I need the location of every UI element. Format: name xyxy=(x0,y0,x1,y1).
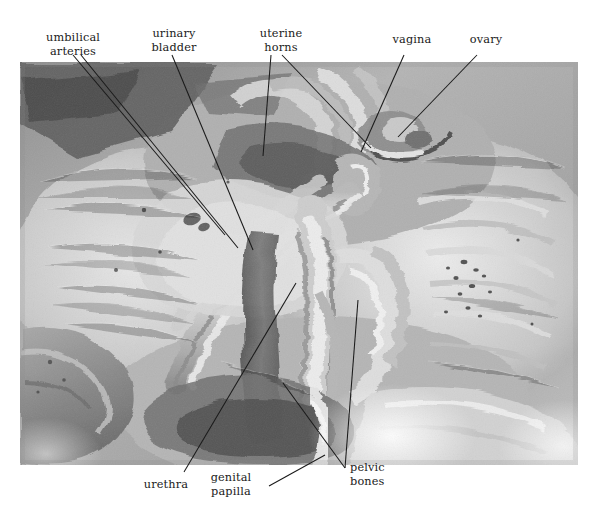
label-uterine-horns: uterine horns xyxy=(237,27,325,54)
label-line: horns xyxy=(237,41,325,55)
label-vagina: vagina xyxy=(382,33,442,47)
label-line: bladder xyxy=(128,41,220,55)
anatomical-photograph xyxy=(20,62,578,465)
label-ovary: ovary xyxy=(455,33,517,47)
label-pelvic-bones: pelvic bones xyxy=(350,461,414,488)
label-line: urinary xyxy=(128,27,220,41)
label-line: ovary xyxy=(455,33,517,47)
label-line: papilla xyxy=(196,485,266,499)
figure-page: umbilical arteries urinary bladder uteri… xyxy=(0,0,594,513)
label-umbilical-arteries: umbilical arteries xyxy=(14,31,132,58)
label-line: umbilical xyxy=(14,31,132,45)
label-genital-papilla: genital papilla xyxy=(196,471,266,498)
label-line: uterine xyxy=(237,27,325,41)
label-urinary-bladder: urinary bladder xyxy=(128,27,220,54)
label-line: arteries xyxy=(14,45,132,59)
label-line: bones xyxy=(350,475,414,489)
label-line: pelvic xyxy=(350,461,414,475)
label-line: genital xyxy=(196,471,266,485)
label-urethra: urethra xyxy=(131,478,201,492)
label-line: vagina xyxy=(382,33,442,47)
photo-canvas xyxy=(20,62,578,465)
label-line: urethra xyxy=(131,478,201,492)
